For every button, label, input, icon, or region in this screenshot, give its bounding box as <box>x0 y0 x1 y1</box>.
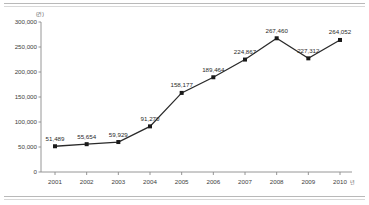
x-tick-label: 2006 <box>206 178 220 185</box>
line-chart: 050,000100,000150,000200,000250,000300,0… <box>0 8 369 194</box>
x-tick-label: 2005 <box>175 178 189 185</box>
data-point-label: 59,929 <box>109 131 128 138</box>
x-tick-label: 2001 <box>48 178 62 185</box>
data-point-label: 224,867 <box>234 48 257 55</box>
x-tick-label: 2002 <box>80 178 94 185</box>
x-axis-tick-labels: 2001200220032004200520062007200820092010 <box>48 178 347 185</box>
data-point-label: 51,489 <box>46 135 65 142</box>
data-point-label: 227,312 <box>297 47 320 54</box>
data-point-label: 267,460 <box>265 27 288 34</box>
data-point-marker <box>306 56 310 60</box>
x-axis-unit-label: 년 <box>350 179 355 185</box>
data-point-marker <box>148 124 152 128</box>
frame-top-divider <box>4 3 365 4</box>
frame-bottom-divider <box>4 196 365 197</box>
chart-svg: 050,000100,000150,000200,000250,000300,0… <box>0 8 369 194</box>
y-tick-label: 100,000 <box>15 118 38 125</box>
data-point-marker <box>116 140 120 144</box>
x-tick-label: 2010 <box>333 178 347 185</box>
data-point-marker <box>180 91 184 95</box>
y-tick-label: 300,000 <box>15 18 38 25</box>
data-point-label: 189,464 <box>202 66 225 73</box>
x-tick-label: 2004 <box>143 178 157 185</box>
data-point-label: 55,654 <box>77 133 96 140</box>
data-point-marker <box>211 75 215 79</box>
data-point-label: 158,177 <box>170 81 193 88</box>
data-point-marker <box>243 58 247 62</box>
x-tick-label: 2007 <box>238 178 252 185</box>
x-tick-label: 2009 <box>301 178 315 185</box>
y-tick-label: 150,000 <box>15 93 38 100</box>
frame-top-divider-secondary <box>4 6 365 7</box>
y-tick-label: 250,000 <box>15 43 38 50</box>
x-tick-label: 2008 <box>270 178 284 185</box>
data-point-label: 264,052 <box>329 28 352 35</box>
chart-page: (건) 050,000100,000150,000200,000250,0003… <box>0 0 369 205</box>
y-tick-label: 0 <box>34 168 38 175</box>
data-point-marker <box>85 142 89 146</box>
y-tick-label: 200,000 <box>15 68 38 75</box>
frame-bottom-divider-secondary <box>4 199 365 200</box>
y-axis-tick-labels: 050,000100,000150,000200,000250,000300,0… <box>15 18 38 175</box>
x-tick-label: 2003 <box>111 178 125 185</box>
series-line <box>55 38 340 146</box>
data-point-marker <box>53 144 57 148</box>
y-tick-label: 50,000 <box>18 143 37 150</box>
data-point-label: 91,270 <box>141 115 160 122</box>
data-point-marker <box>275 36 279 40</box>
data-point-marker <box>338 38 342 42</box>
